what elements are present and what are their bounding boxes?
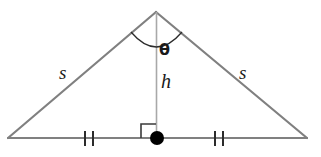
triangle-side-right [156,12,307,138]
triangle-side-left [8,12,156,138]
side-label-left: s [59,63,66,82]
geometry-figure: s s h θ [0,0,321,157]
angle-label-theta: θ [159,42,170,58]
midpoint-dot [150,131,164,145]
side-label-right: s [239,63,246,82]
height-label: h [161,71,171,91]
